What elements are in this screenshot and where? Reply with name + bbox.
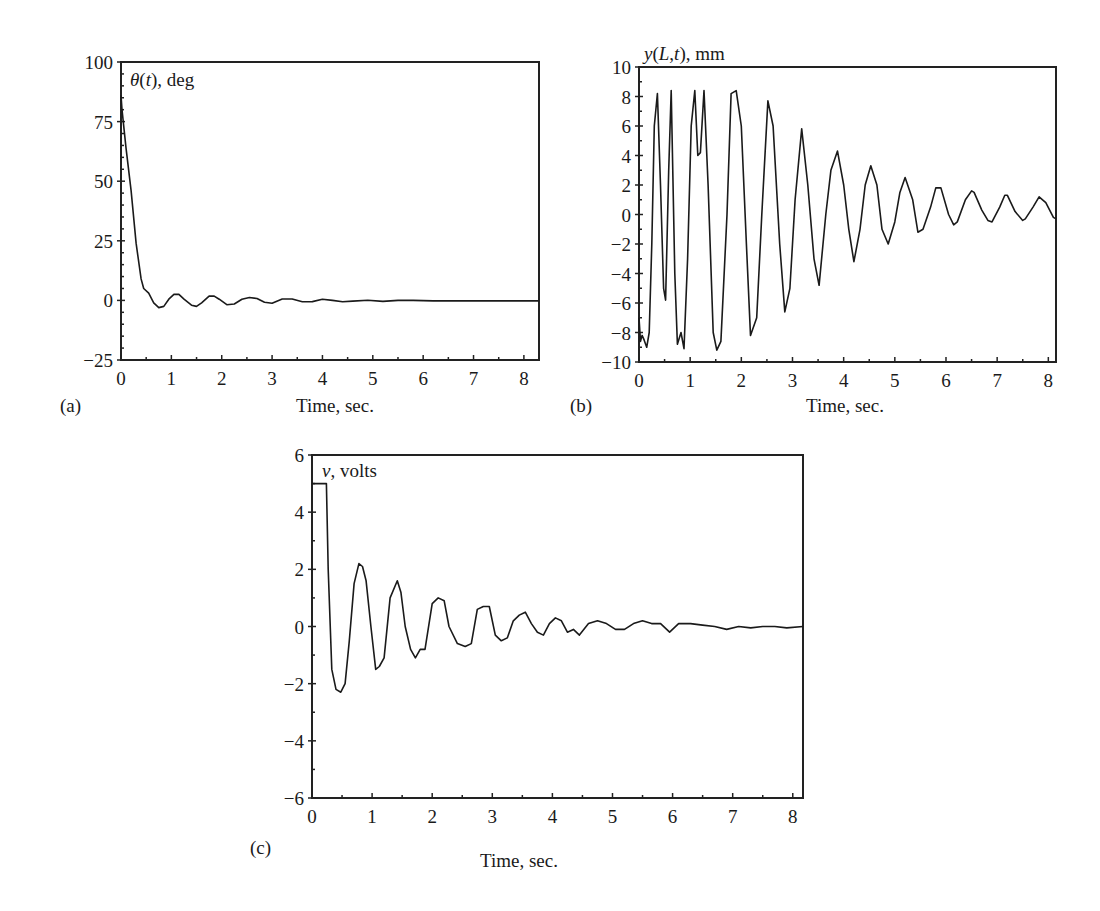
x-axis-title: Time, sec. [806, 395, 884, 416]
y-tick-label: 4 [295, 502, 305, 523]
panel-label-c: (c) [250, 837, 271, 859]
x-tick-label: 7 [992, 370, 1002, 391]
y-tick-label: 0 [622, 205, 632, 226]
y-tick-label: 8 [622, 87, 632, 108]
x-tick-label: 8 [788, 806, 798, 827]
y-tick-label: 75 [94, 112, 113, 133]
y-tick-label: −6 [611, 293, 631, 314]
plot-frame [312, 455, 803, 798]
x-tick-label: 1 [685, 370, 695, 391]
y-tick-label: −2 [284, 674, 304, 695]
y-tick-label: 6 [622, 116, 632, 137]
x-tick-label: 1 [367, 806, 377, 827]
x-tick-label: 3 [788, 370, 798, 391]
panel-a-theta-chart: 012345678−250255075100 θ(t), deg Time, s… [60, 52, 539, 417]
x-tick-label: 2 [427, 806, 437, 827]
y-tick-label: 50 [94, 171, 113, 192]
axis-ticks: 012345678−6−4−20246 [284, 445, 798, 827]
x-tick-label: 7 [469, 368, 479, 389]
x-tick-label: 2 [737, 370, 747, 391]
x-tick-label: 5 [890, 370, 900, 391]
axis-ticks: 012345678−10−8−6−4−20246810 [601, 57, 1053, 391]
y-tick-label: 25 [94, 231, 113, 252]
x-tick-label: 4 [318, 368, 328, 389]
x-tick-label: 7 [728, 806, 738, 827]
x-tick-label: 3 [267, 368, 277, 389]
x-tick-label: 0 [116, 368, 126, 389]
x-tick-label: 5 [368, 368, 378, 389]
y-tick-label: −8 [611, 323, 631, 344]
y-tick-label: 2 [295, 559, 305, 580]
x-tick-label: 6 [668, 806, 678, 827]
panel-b-deflection-chart: 012345678−10−8−6−4−20246810 y(L,t), mm T… [570, 43, 1056, 417]
x-tick-label: 5 [608, 806, 618, 827]
x-tick-label: 4 [839, 370, 849, 391]
figure-canvas: 012345678−250255075100 θ(t), deg Time, s… [0, 0, 1100, 911]
y-tick-label: −10 [601, 352, 631, 373]
panel-label-a: (a) [60, 395, 81, 417]
y-tick-label: 2 [622, 175, 632, 196]
y-tick-label: 10 [612, 57, 631, 78]
series-label: θ(t), deg [130, 69, 195, 91]
y-tick-label: −6 [284, 788, 304, 809]
x-tick-label: 1 [167, 368, 177, 389]
x-tick-label: 6 [941, 370, 951, 391]
voltage-trace [312, 484, 803, 693]
x-tick-label: 6 [418, 368, 428, 389]
series-label: y(L,t), mm [642, 43, 725, 65]
theta-trace [121, 95, 539, 307]
x-tick-label: 8 [519, 368, 529, 389]
y-tick-label: −4 [284, 731, 305, 752]
axis-ticks: 012345678−250255075100 [83, 52, 528, 389]
series-label: v, volts [322, 460, 377, 481]
y-tick-label: 4 [622, 146, 632, 167]
deflection-trace [639, 91, 1056, 351]
x-tick-label: 0 [634, 370, 644, 391]
x-tick-label: 2 [217, 368, 227, 389]
x-tick-label: 8 [1044, 370, 1054, 391]
y-tick-label: 100 [85, 52, 114, 73]
x-tick-label: 3 [488, 806, 498, 827]
x-tick-label: 4 [548, 806, 558, 827]
y-tick-label: 6 [295, 445, 305, 466]
y-tick-label: −4 [611, 264, 632, 285]
x-tick-label: 0 [307, 806, 317, 827]
y-tick-label: 0 [104, 290, 114, 311]
panel-label-b: (b) [570, 395, 592, 417]
x-axis-title: Time, sec. [296, 395, 374, 416]
plot-frame [121, 62, 539, 360]
x-axis-title: Time, sec. [480, 850, 558, 871]
y-tick-label: −2 [611, 234, 631, 255]
panel-c-voltage-chart: 012345678−6−4−20246 v, volts Time, sec. … [250, 445, 803, 871]
y-tick-label: 0 [295, 617, 305, 638]
y-tick-label: −25 [83, 350, 113, 371]
